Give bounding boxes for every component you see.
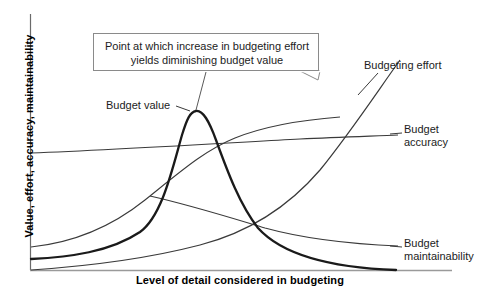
leader-line-budget-maintainability: [390, 246, 402, 247]
callout-line-1: Point at which increase in budgeting eff…: [105, 40, 309, 52]
curve-budgeting-effort: [31, 60, 400, 270]
series-label-budget-accuracy: Budget accuracy: [404, 123, 484, 149]
budget-accuracy-line-2: accuracy: [404, 136, 448, 148]
curve-budget-maintainability-upper: [31, 117, 340, 247]
budget-maintainability-line-2: maintainability: [404, 250, 474, 262]
series-label-budget-value: Budget value: [106, 99, 170, 112]
chart-container: Point at which increase in budgeting eff…: [0, 0, 488, 292]
callout-line-2: yields diminishing budget value: [131, 54, 283, 66]
callout-pointer-line: [196, 72, 206, 110]
y-axis-title: Value, effort, accuracy, maintainability: [23, 21, 35, 251]
curve-budget-value: [31, 111, 396, 270]
callout-tail: [300, 71, 320, 80]
leader-line-budget-value: [176, 106, 190, 111]
leader-line-budgeting-effort: [358, 73, 378, 95]
budget-maintainability-line-1: Budget: [404, 237, 439, 249]
series-label-budgeting-effort: Budgeting effort: [364, 59, 441, 72]
budget-accuracy-line-1: Budget: [404, 123, 439, 135]
leader-line-budget-accuracy: [390, 133, 402, 134]
series-label-budget-maintainability: Budget maintainability: [404, 237, 488, 263]
x-axis-title: Level of detail considered in budgeting: [120, 274, 360, 286]
annotation-callout-box: Point at which increase in budgeting eff…: [93, 33, 319, 71]
curve-budget-maintainability-lower: [150, 196, 398, 246]
annotation-callout-text: Point at which increase in budgeting eff…: [94, 39, 320, 67]
